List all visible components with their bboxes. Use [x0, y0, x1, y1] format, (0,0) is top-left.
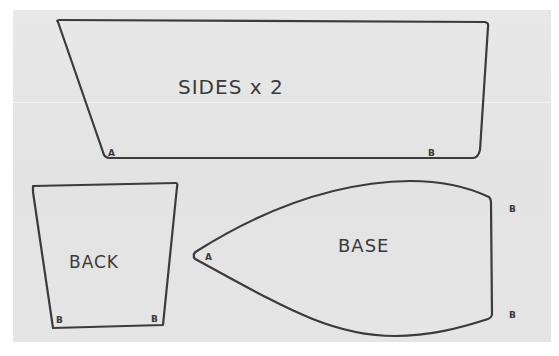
base-corner-b-bottom: B: [509, 310, 516, 320]
piece-sides: SIDES x 2 A B: [57, 20, 488, 158]
piece-base: BASE A B B: [194, 181, 516, 336]
sides-corner-a: A: [108, 148, 115, 158]
base-outline: [194, 181, 492, 336]
sides-label: SIDES x 2: [178, 75, 284, 99]
pattern-diagram: SIDES x 2 A B BACK B B BASE A B B: [0, 0, 559, 356]
piece-back: BACK B B: [33, 183, 177, 328]
base-corner-a: A: [205, 252, 212, 262]
sides-corner-b: B: [428, 148, 435, 158]
back-corner-b-left: B: [56, 315, 63, 325]
back-corner-b-right: B: [151, 314, 158, 324]
base-label: BASE: [338, 235, 389, 256]
base-corner-b-top: B: [509, 204, 516, 214]
back-label: BACK: [69, 252, 119, 272]
